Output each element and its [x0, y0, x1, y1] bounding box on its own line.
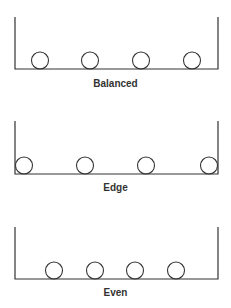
ball-icon — [168, 262, 185, 279]
panel-label-edge: Edge — [0, 182, 231, 193]
ball-icon — [16, 157, 33, 174]
ball-distribution-diagram — [0, 0, 231, 308]
ball-icon — [77, 157, 94, 174]
ball-icon — [201, 157, 218, 174]
ball-icon — [82, 52, 99, 69]
panel-label-even: Even — [0, 287, 231, 298]
panel-edge — [15, 121, 218, 174]
panel-even — [15, 227, 218, 279]
panel-balanced — [15, 17, 218, 69]
ball-icon — [46, 262, 63, 279]
container-outline — [15, 121, 218, 174]
ball-icon — [133, 52, 150, 69]
ball-icon — [138, 157, 155, 174]
ball-icon — [184, 52, 201, 69]
ball-icon — [87, 262, 104, 279]
container-outline — [15, 17, 218, 69]
ball-icon — [127, 262, 144, 279]
panel-label-balanced: Balanced — [0, 78, 231, 89]
ball-icon — [32, 52, 49, 69]
